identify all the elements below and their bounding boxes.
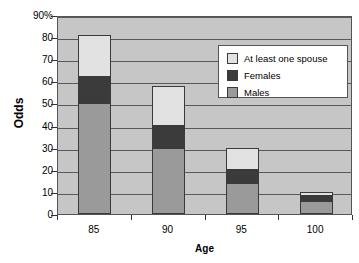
x-tick-label-100: 100: [290, 224, 340, 235]
y-tick-label: 50: [13, 99, 53, 109]
bar-segment-90-at-least-one-spouse: [152, 86, 185, 126]
legend-label: Females: [244, 70, 280, 81]
legend-item: Females: [227, 68, 347, 83]
x-tick-mark: [205, 215, 206, 220]
legend-label: Males: [244, 87, 269, 98]
x-tick-mark: [278, 215, 279, 220]
bar-segment-100-males: [300, 201, 333, 214]
y-tick-label: 0: [13, 210, 53, 220]
bar-segment-85-males: [78, 103, 111, 214]
bar-segment-85-at-least-one-spouse: [78, 35, 111, 77]
y-tick-label: 20: [13, 166, 53, 176]
y-tick-label: 60: [13, 77, 53, 87]
legend-item: Males: [227, 85, 347, 100]
bar-segment-90-males: [152, 148, 185, 214]
y-axis-title: Odds: [12, 83, 26, 143]
y-tick-label: 80: [13, 33, 53, 43]
bar-segment-100-at-least-one-spouse: [300, 192, 333, 196]
bar-segment-85-females: [78, 77, 111, 104]
chart-legend: At least one spouseFemalesMales: [218, 45, 348, 98]
legend-swatch-icon: [227, 87, 238, 98]
y-tick-label: 90%: [13, 11, 53, 21]
legend-swatch-icon: [227, 53, 238, 64]
x-tick-label-85: 85: [69, 224, 119, 235]
y-tick-label: 70: [13, 55, 53, 65]
x-tick-mark: [352, 215, 353, 220]
bar-segment-95-females: [226, 170, 259, 183]
legend-item: At least one spouse: [227, 51, 347, 66]
chart-container: Odds 90%80706050403020100 859095100 Age …: [0, 0, 359, 263]
x-tick-mark: [57, 215, 58, 220]
y-tick-label: 10: [13, 188, 53, 198]
legend-label: At least one spouse: [244, 53, 327, 64]
x-tick-label-95: 95: [216, 224, 266, 235]
bar-segment-90-females: [152, 126, 185, 148]
bar-segment-95-males: [226, 183, 259, 214]
bar-segment-100-females: [300, 196, 333, 200]
x-tick-label-90: 90: [143, 224, 193, 235]
bar-group-85: [78, 15, 111, 214]
legend-swatch-icon: [227, 70, 238, 81]
bar-group-90: [152, 15, 185, 214]
bar-segment-95-at-least-one-spouse: [226, 148, 259, 170]
y-tick-label: 30: [13, 144, 53, 154]
x-tick-mark: [131, 215, 132, 220]
x-axis-title: Age: [57, 243, 352, 254]
y-tick-label: 40: [13, 122, 53, 132]
